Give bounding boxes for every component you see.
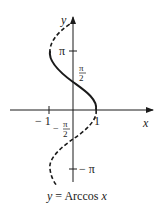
arccos-diagram: y x π − π − 1 1 π 2 − π 2 y = Arccos x: [0, 0, 162, 208]
svg-text:π: π: [63, 119, 68, 129]
y-tick-label-neg-pi: − π: [79, 162, 95, 176]
svg-text:−: −: [53, 123, 59, 134]
x-axis-label: x: [142, 116, 149, 130]
svg-text:2: 2: [79, 73, 84, 83]
figure-caption: y = Arccos x: [46, 189, 107, 203]
label-pi-over-2: π 2: [79, 63, 86, 83]
x-tick-label-neg1: − 1: [35, 114, 51, 128]
y-axis-label: y: [60, 13, 67, 27]
svg-text:2: 2: [63, 129, 68, 139]
svg-text:π: π: [79, 63, 84, 73]
label-neg-pi-over-2: − π 2: [53, 119, 70, 139]
x-tick-label-1: 1: [94, 114, 100, 128]
y-tick-label-pi: π: [59, 44, 65, 58]
